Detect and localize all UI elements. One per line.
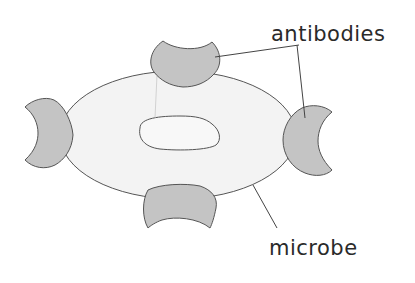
antibody-left xyxy=(25,98,73,167)
antibody-bottom xyxy=(144,184,217,228)
microbe-nucleus xyxy=(140,116,220,150)
antibodies-label: antibodies xyxy=(271,22,385,46)
antibodies-leader-line-top xyxy=(215,45,299,57)
antibody-microbe-diagram: antibodies microbe xyxy=(0,0,415,283)
microbe-leader-line xyxy=(253,185,277,228)
microbe-label: microbe xyxy=(269,236,358,260)
antibodies-leader-line-right xyxy=(297,45,305,118)
